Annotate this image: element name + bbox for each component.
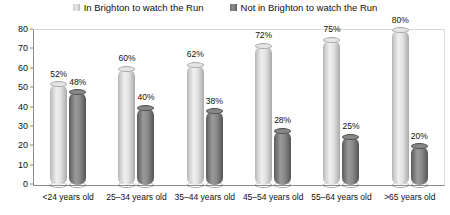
x-axis-category-label: 45–54 years old [239,192,307,202]
x-axis-category-label: 25–34 years old [102,192,170,202]
bar-series-2[interactable] [342,137,359,185]
bar-series-2[interactable] [274,131,291,185]
y-axis-tick-label: 10 [18,160,28,169]
bar-column[interactable]: 38% [206,30,223,185]
bar-value-label: 48% [69,78,86,87]
y-axis-tick-label: 50 [18,83,28,92]
bar-series-1[interactable] [255,46,272,186]
x-axis-category-label: <24 years old [34,192,102,202]
bar-group: 52%48% [34,30,102,185]
bar-series-2[interactable] [411,146,428,185]
legend-swatch-icon-series-1 [73,4,80,11]
bar-series-2[interactable] [206,111,223,185]
y-axis-tick-label: 60 [18,63,28,72]
bar-column[interactable]: 40% [137,30,154,185]
legend-label-series-2: Not in Brighton to watch the Run [241,2,378,13]
x-axis-category-label: 55–64 years old [307,192,375,202]
bar-value-label: 72% [255,31,272,40]
bar-value-label: 75% [323,25,340,34]
bar-group: 72%28% [239,30,307,185]
bar-column[interactable]: 62% [187,30,204,185]
bar-series-1[interactable] [187,65,204,185]
bar-groups: 52%48%60%40%62%38%72%28%75%25%80%20% [34,30,444,185]
y-axis-tick-label: 0 [23,180,28,189]
y-axis-tick-label: 70 [18,44,28,53]
y-axis: 01020304050607080 [0,29,33,186]
bar-column[interactable]: 60% [118,30,135,185]
legend-item-series-1: In Brighton to watch the Run [73,2,204,13]
bar-column[interactable]: 25% [342,30,359,185]
bar-column[interactable]: 48% [69,30,86,185]
bar-column[interactable]: 80% [392,30,409,185]
y-axis-tick-label: 40 [18,102,28,111]
bar-value-label: 38% [206,97,223,106]
x-axis-category-label: >65 years old [376,192,444,202]
bar-group: 60%40% [102,30,170,185]
bar-value-label: 20% [411,132,428,141]
bar-group: 62%38% [171,30,239,185]
y-axis-tick-label: 80 [18,25,28,34]
bar-value-label: 40% [137,93,154,102]
bar-series-1[interactable] [323,40,340,185]
bar-column[interactable]: 72% [255,30,272,185]
bar-column[interactable]: 20% [411,30,428,185]
bar-value-label: 25% [342,122,359,131]
x-axis: <24 years old25–34 years old35–44 years … [34,192,444,202]
legend-label-series-1: In Brighton to watch the Run [84,2,204,13]
bar-series-1[interactable] [118,69,135,185]
bar-series-2[interactable] [137,108,154,186]
y-axis-tick-label: 20 [18,141,28,150]
legend-item-series-2: Not in Brighton to watch the Run [230,2,378,13]
bar-group: 75%25% [307,30,375,185]
legend-swatch-icon-series-2 [230,4,237,11]
bar-series-2[interactable] [69,92,86,185]
y-axis-tick-label: 30 [18,121,28,130]
bar-column[interactable]: 52% [50,30,67,185]
x-axis-category-label: 35–44 years old [171,192,239,202]
bar-value-label: 52% [50,70,67,79]
bar-series-1[interactable] [392,30,409,185]
bar-column[interactable]: 28% [274,30,291,185]
chart-legend: In Brighton to watch the Run Not in Brig… [0,2,450,13]
bar-column[interactable]: 75% [323,30,340,185]
bar-chart: In Brighton to watch the Run Not in Brig… [0,0,450,215]
bar-series-1[interactable] [50,84,67,185]
bar-value-label: 80% [392,16,409,25]
bar-value-label: 28% [274,116,291,125]
bar-value-label: 62% [187,50,204,59]
bar-value-label: 60% [118,54,135,63]
bar-group: 80%20% [376,30,444,185]
